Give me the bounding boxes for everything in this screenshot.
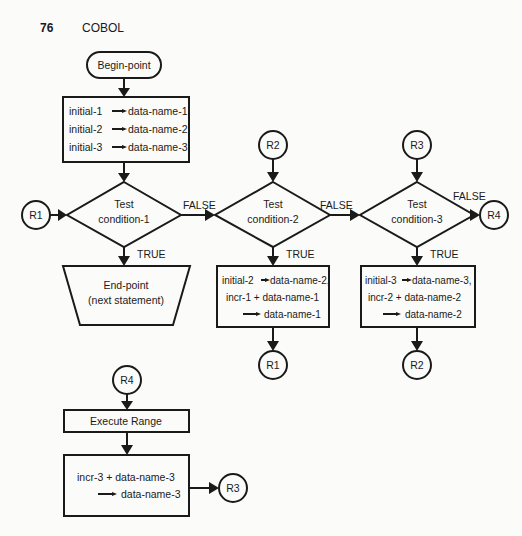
connector-label: R3 <box>410 139 424 151</box>
init-line-1-target: data-name-1, <box>128 105 190 117</box>
connector-label: R4 <box>487 209 501 221</box>
begin-point-label: Begin-point <box>97 59 150 71</box>
connector-label: R2 <box>266 139 280 151</box>
decision-condition-1: Test condition-1 <box>67 182 181 247</box>
true-label: TRUE <box>430 248 459 260</box>
connector-label: R4 <box>120 374 134 386</box>
end-point-node: End-point (next statement) <box>63 266 190 325</box>
condition-label: Test <box>114 198 133 210</box>
connector-r3-lower: R3 <box>219 474 247 502</box>
box-line: initial-3 <box>365 275 397 286</box>
box-line: initial-2 <box>222 275 254 286</box>
arrow-down-icon <box>411 256 423 266</box>
connector-label: R1 <box>266 359 280 371</box>
true-label: TRUE <box>137 248 166 260</box>
init-line-2-source: initial-2 <box>69 123 102 135</box>
connector-label: R3 <box>226 482 240 494</box>
init-line-3-target: data-name-3. <box>128 141 190 153</box>
arrow-down-icon <box>267 341 279 351</box>
page-title: COBOL <box>82 21 124 35</box>
arrow-down-icon <box>118 88 130 97</box>
box-line: data-name-2, <box>270 275 329 286</box>
page-number: 76 <box>40 21 54 35</box>
arrow-right-icon <box>470 209 480 221</box>
box-line: data-name-2 <box>405 309 462 320</box>
execute-range-label: Execute Range <box>90 415 162 427</box>
arrow-right-icon <box>209 482 219 494</box>
arrow-down-icon <box>267 172 279 182</box>
increment-box-3: incr-3 + data-name-3 data-name-3 <box>64 455 189 516</box>
box-line: incr-1 + data-name-1 <box>226 292 320 303</box>
true-label: TRUE <box>286 248 315 260</box>
init-line-3-source: initial-3 <box>69 141 102 153</box>
connector-r4-lower: R4 <box>113 366 141 394</box>
init-line-2-target: data-name-2, <box>128 123 190 135</box>
begin-point-node: Begin-point <box>87 52 161 78</box>
box-line: data-name-1 <box>264 309 321 320</box>
arrow-down-icon <box>411 172 423 182</box>
connector-label: R1 <box>29 209 43 221</box>
connector-r2-bottom: R2 <box>403 351 431 379</box>
condition-label: Test <box>263 198 282 210</box>
condition-label: condition-1 <box>98 213 150 225</box>
initialize-box: initial-1 data-name-1, initial-2 data-na… <box>63 97 190 162</box>
arrow-down-icon <box>411 341 423 351</box>
update-box-2: initial-2 data-name-2, incr-1 + data-nam… <box>217 266 329 327</box>
connector-r4-right: R4 <box>480 201 508 229</box>
execute-range-box: Execute Range <box>64 410 189 432</box>
flowchart: 76 COBOL Begin-point initial-1 data-name… <box>0 0 522 536</box>
arrow-down-icon <box>118 173 130 182</box>
connector-label: R2 <box>410 359 424 371</box>
connector-r3-top: R3 <box>403 131 431 159</box>
box-line: data-name-3, <box>412 275 471 286</box>
update-box-3: initial-3 data-name-3, incr-2 + data-nam… <box>361 266 475 327</box>
connector-r2-top: R2 <box>259 131 287 159</box>
arrow-down-icon <box>121 445 133 455</box>
end-point-sublabel: (next statement) <box>88 294 164 306</box>
box-line: data-name-3 <box>121 488 181 500</box>
box-line: incr-3 + data-name-3 <box>77 471 175 483</box>
init-line-1-source: initial-1 <box>69 105 102 117</box>
decision-condition-2: Test condition-2 <box>215 182 330 247</box>
end-point-label: End-point <box>104 279 149 291</box>
condition-label: condition-3 <box>391 213 443 225</box>
box-line: incr-2 + data-name-2 <box>368 292 462 303</box>
arrow-down-icon <box>121 401 133 410</box>
arrow-down-icon <box>267 256 279 266</box>
connector-r1-bottom: R1 <box>259 351 287 379</box>
condition-label: condition-2 <box>247 213 299 225</box>
false-label: FALSE <box>320 199 353 211</box>
condition-label: Test <box>407 198 426 210</box>
false-label: FALSE <box>453 190 486 202</box>
connector-r1-left: R1 <box>22 201 50 229</box>
arrow-down-icon <box>118 256 130 266</box>
false-label: FALSE <box>183 199 216 211</box>
